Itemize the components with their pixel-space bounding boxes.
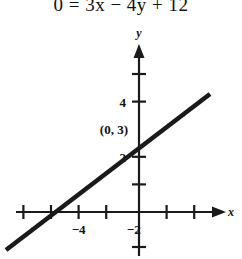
- x-axis-label: x: [227, 205, 234, 219]
- y-axis-arrow-icon: [134, 44, 145, 58]
- graph-svg: x y −4 −2 4 2: [0, 24, 242, 259]
- coordinate-graph: x y −4 −2 4 2: [0, 24, 242, 259]
- point-annotation-label: (0, 3): [100, 122, 128, 137]
- y-axis-label: y: [134, 26, 142, 40]
- x-tick-label-neg2: −2: [127, 222, 141, 237]
- x-axis-arrow-icon: [212, 207, 226, 218]
- x-tick-label-neg4: −4: [72, 222, 86, 237]
- plot-line: [6, 94, 210, 250]
- y-tick-label-4: 4: [120, 95, 127, 110]
- equation-text: 0 = 3x − 4y + 12: [0, 0, 242, 16]
- figure-container: 0 = 3x − 4y + 12 x y −4 −2: [0, 0, 242, 259]
